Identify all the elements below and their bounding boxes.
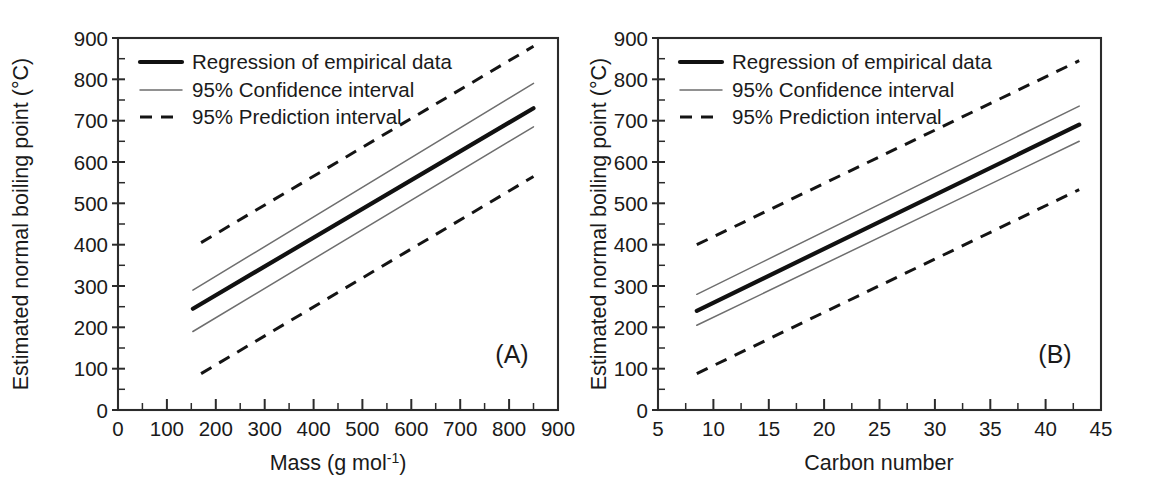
x-tick-label: 35 <box>979 417 1002 440</box>
y-tick-label: 900 <box>74 27 108 50</box>
y-tick-label: 100 <box>614 357 648 380</box>
x-axis-title-exponent: -1 <box>387 450 400 466</box>
legend-label-confidence: 95% Confidence interval <box>192 78 414 101</box>
y-tick-label: 600 <box>614 151 648 174</box>
y-tick-label: 300 <box>74 275 108 298</box>
legend-label-regression: Regression of empirical data <box>192 50 452 73</box>
panel-a-legend: Regression of empirical data 95% Confide… <box>140 50 452 128</box>
y-tick-label: 700 <box>74 109 108 132</box>
legend-label-prediction: 95% Prediction interval <box>192 105 402 128</box>
panel-b: Estimated normal boiling point (°C) 900 … <box>578 0 1155 483</box>
panel-a: Estimated normal boiling point (°C) 900 … <box>0 0 578 483</box>
x-tick-label: 40 <box>1034 417 1057 440</box>
x-tick-label: 300 <box>248 417 282 440</box>
y-tick-label: 800 <box>74 68 108 91</box>
panel-b-tag: (B) <box>1038 340 1071 368</box>
x-tick-label: 25 <box>868 417 891 440</box>
x-axis-title-main: Carbon number <box>804 451 953 475</box>
figure-container: Estimated normal boiling point (°C) 900 … <box>0 0 1155 483</box>
y-tick-label: 200 <box>74 316 108 339</box>
x-tick-label: 700 <box>443 417 477 440</box>
y-tick-label: 400 <box>74 233 108 256</box>
y-tick-label: 0 <box>97 399 108 422</box>
y-tick-label: 900 <box>614 27 648 50</box>
panel-b-y-axis-title: Estimated normal boiling point (°C) <box>587 58 611 390</box>
legend-label-prediction: 95% Prediction interval <box>732 105 942 128</box>
panel-b-y-tick-labels: 900 800 700 600 500 400 300 200 100 0 <box>614 27 648 422</box>
x-tick-label: 45 <box>1090 417 1113 440</box>
x-axis-title-main: Mass (g mol <box>270 451 387 475</box>
y-tick-label: 500 <box>614 192 648 215</box>
y-tick-label: 200 <box>614 316 648 339</box>
x-axis-title-tail: ) <box>399 451 406 475</box>
x-tick-label: 100 <box>150 417 184 440</box>
x-tick-label: 900 <box>541 417 575 440</box>
x-tick-label: 600 <box>394 417 428 440</box>
panel-b-x-ticks <box>658 399 1101 410</box>
x-tick-label: 800 <box>492 417 526 440</box>
x-tick-label: 30 <box>923 417 946 440</box>
y-tick-label: 700 <box>614 109 648 132</box>
panel-a-x-tick-labels: 0 100 200 300 400 500 600 700 800 900 <box>112 417 575 440</box>
panel-a-x-axis-title: Mass (g mol-1) <box>270 450 407 475</box>
y-tick-label: 0 <box>637 399 648 422</box>
y-tick-label: 300 <box>614 275 648 298</box>
y-tick-label: 500 <box>74 192 108 215</box>
panel-a-y-tick-labels: 900 800 700 600 500 400 300 200 100 0 <box>74 27 108 422</box>
x-tick-label: 500 <box>345 417 379 440</box>
x-tick-label: 400 <box>296 417 330 440</box>
panel-b-x-axis-title: Carbon number <box>804 451 953 475</box>
panel-a-plot: Estimated normal boiling point (°C) 900 … <box>0 0 578 483</box>
panel-a-x-ticks <box>118 399 558 410</box>
legend-label-regression: Regression of empirical data <box>732 50 992 73</box>
x-tick-label: 0 <box>112 417 123 440</box>
x-tick-label: 200 <box>199 417 233 440</box>
y-tick-label: 600 <box>74 151 108 174</box>
x-tick-label: 5 <box>652 417 663 440</box>
panel-a-y-axis-title: Estimated normal boiling point (°C) <box>9 58 33 390</box>
x-tick-label: 20 <box>813 417 836 440</box>
panel-b-x-tick-labels: 5 10 15 20 25 30 35 40 45 <box>652 417 1112 440</box>
y-tick-label: 100 <box>74 357 108 380</box>
y-tick-label: 800 <box>614 68 648 91</box>
x-tick-label: 10 <box>702 417 725 440</box>
panel-b-legend: Regression of empirical data 95% Confide… <box>680 50 992 128</box>
y-tick-label: 400 <box>614 233 648 256</box>
x-tick-label: 15 <box>757 417 780 440</box>
panel-b-plot: Estimated normal boiling point (°C) 900 … <box>578 0 1155 483</box>
legend-label-confidence: 95% Confidence interval <box>732 78 954 101</box>
panel-a-tag: (A) <box>495 340 528 368</box>
